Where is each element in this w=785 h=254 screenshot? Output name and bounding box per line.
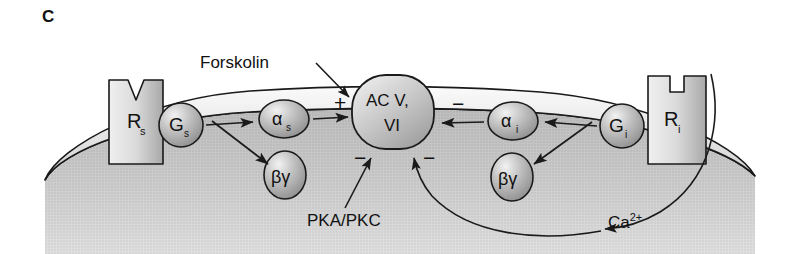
adenylyl-cyclase-line1: AC V, bbox=[366, 91, 409, 110]
beta-gamma-left[interactable]: βγ bbox=[264, 151, 306, 199]
adenylyl-cyclase-line2: VI bbox=[384, 116, 400, 135]
alpha-s-subunit[interactable]: α s bbox=[259, 100, 309, 138]
sign-minus-calcium: − bbox=[423, 146, 435, 169]
receptor-ri-label: R bbox=[664, 108, 678, 130]
pka-pkc-label: PKA/PKC bbox=[307, 212, 381, 229]
panel-letter: C bbox=[42, 8, 54, 25]
alpha-s-label: α bbox=[272, 109, 282, 129]
beta-gamma-left-label: βγ bbox=[271, 167, 290, 187]
sign-minus-pka-pkc: − bbox=[354, 146, 366, 169]
g-protein-gi-subscript: i bbox=[625, 129, 627, 140]
forskolin-label: Forskolin bbox=[200, 54, 269, 71]
beta-gamma-right[interactable]: βγ bbox=[491, 153, 533, 201]
g-protein-gi-label: G bbox=[609, 115, 624, 136]
alpha-s-subscript: s bbox=[286, 122, 291, 133]
pathway-diagram-svg: R s G s α s βγ AC V, VI α bbox=[0, 0, 785, 254]
g-protein-gs-label: G bbox=[169, 114, 184, 135]
g-protein-gs-subscript: s bbox=[184, 128, 189, 139]
g-protein-gs[interactable]: G s bbox=[159, 103, 203, 147]
calcium-symbol: Ca bbox=[608, 213, 630, 232]
adenylyl-cyclase-ac-v-vi[interactable]: AC V, VI bbox=[352, 75, 434, 149]
receptor-ri[interactable]: R i bbox=[648, 76, 706, 164]
beta-gamma-right-label: βγ bbox=[498, 169, 517, 189]
alpha-i-subunit[interactable]: α i bbox=[488, 102, 538, 140]
receptor-ri-subscript: i bbox=[678, 123, 680, 135]
figure-panel-c: R s G s α s βγ AC V, VI α bbox=[0, 0, 785, 254]
alpha-i-label: α bbox=[501, 111, 511, 131]
calcium-label: Ca2+ bbox=[608, 212, 642, 231]
sign-minus-alpha-i: − bbox=[452, 92, 464, 115]
receptor-rs[interactable]: R s bbox=[109, 80, 163, 164]
g-protein-gi[interactable]: G i bbox=[600, 104, 644, 148]
receptor-rs-subscript: s bbox=[140, 125, 146, 137]
calcium-charge: 2+ bbox=[630, 211, 643, 223]
alpha-i-subscript: i bbox=[516, 124, 518, 135]
arrow-alpha-i-to-ac bbox=[442, 122, 484, 123]
sign-plus-forskolin: + bbox=[334, 91, 346, 114]
